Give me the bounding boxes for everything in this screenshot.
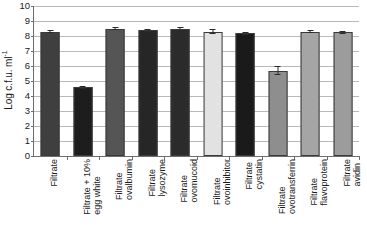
bar[interactable]: [138, 30, 157, 156]
x-axis-label-line1: Filtrate: [114, 173, 124, 201]
bar[interactable]: [203, 32, 222, 157]
x-axis-label: Filtrateavidin: [326, 159, 359, 233]
x-axis-label: Filtrateovalbumin: [98, 159, 131, 233]
x-axis-label-line1: Filtrate: [342, 159, 352, 187]
y-tick-label: 3: [14, 106, 30, 116]
plot-area: [33, 6, 359, 157]
x-axis-label: Filtratecystatin: [228, 159, 261, 233]
x-axis-label: Filtrateflavoprotein: [293, 159, 326, 233]
y-tick-label: 0: [14, 151, 30, 161]
y-tick-mark: [31, 156, 34, 157]
bar-slot: [327, 6, 360, 156]
x-axis-label: Filtrateovomucoid: [163, 159, 196, 233]
y-tick-label: 7: [14, 46, 30, 56]
bar-slot: [34, 6, 67, 156]
y-tick-label: 10: [14, 1, 30, 11]
y-tick-label: 2: [14, 121, 30, 131]
bar[interactable]: [268, 71, 287, 157]
error-bar: [50, 30, 51, 33]
bar-slot: [262, 6, 295, 156]
bar-slot: [294, 6, 327, 156]
bar[interactable]: [171, 29, 190, 156]
error-bar: [82, 86, 83, 89]
bar-slot: [99, 6, 132, 156]
x-axis-label: Filtratelysozyme: [131, 159, 164, 233]
bars-layer: [34, 6, 359, 156]
y-tick-label: 6: [14, 61, 30, 71]
x-axis-label-line1: Filtrate: [309, 178, 319, 206]
bar[interactable]: [41, 32, 60, 157]
error-bar: [212, 29, 213, 34]
x-axis-label-line1: Filtrate: [277, 187, 287, 215]
x-axis-labels: FiltrateFiltrate + 10%egg whiteFiltrateo…: [33, 159, 358, 233]
error-bar: [115, 27, 116, 30]
y-axis-title-exponent: -1: [2, 50, 9, 56]
bar[interactable]: [333, 32, 352, 156]
x-axis-label-line1: Filtrate: [147, 169, 157, 197]
x-axis-label-line1: Filtrate: [244, 162, 254, 190]
bar[interactable]: [106, 29, 125, 157]
x-axis-label-line2: avidin: [352, 159, 362, 187]
error-bar: [310, 30, 311, 34]
y-tick-label: 5: [14, 76, 30, 86]
y-axis-title-text: Log c.f.u. ml: [3, 56, 14, 109]
y-tick-label: 4: [14, 91, 30, 101]
x-axis-label-line1: Filtrate: [49, 159, 59, 187]
x-axis-label: Filtrateovotransferrin: [261, 159, 294, 233]
x-axis-label: Filtrate + 10%egg white: [66, 159, 99, 233]
x-axis-label: Filtrateovoinhibitor: [196, 159, 229, 233]
error-bar: [245, 32, 246, 35]
error-bar: [180, 27, 181, 31]
x-axis-label-line1: Filtrate: [212, 178, 222, 206]
bar-slot: [197, 6, 230, 156]
bar-slot: [229, 6, 262, 156]
x-axis-label: Filtrate: [33, 159, 66, 233]
y-tick-label: 8: [14, 31, 30, 41]
x-axis-label-text: Filtrate: [49, 159, 59, 187]
y-axis-tick-labels: 012345678910: [14, 6, 30, 156]
bar-slot: [164, 6, 197, 156]
error-bar: [277, 66, 278, 75]
bar-slot: [67, 6, 100, 156]
bar[interactable]: [301, 32, 320, 157]
bar[interactable]: [236, 33, 255, 156]
y-tick-label: 1: [14, 136, 30, 146]
x-axis-label-text: Filtrateavidin: [342, 159, 362, 187]
bar-chart: Log c.f.u. ml-1 012345678910 FiltrateFil…: [0, 0, 367, 233]
x-axis-label-line1: Filtrate + 10%: [82, 159, 92, 215]
error-bar: [342, 31, 343, 34]
bar[interactable]: [73, 87, 92, 156]
error-bar: [147, 29, 148, 32]
x-axis-label-line1: Filtrate: [179, 175, 189, 203]
y-tick-label: 9: [14, 16, 30, 26]
bar-slot: [132, 6, 165, 156]
